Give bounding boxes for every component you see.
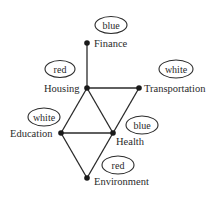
node-education: Education — [10, 128, 64, 139]
node-label: Transportation — [144, 83, 206, 94]
node-dot — [58, 130, 64, 136]
node-dot — [84, 40, 90, 46]
node-label: Education — [10, 128, 53, 139]
color-label: red — [54, 64, 67, 75]
node-label: Housing — [44, 83, 80, 94]
color-badge-transportation: white — [159, 60, 193, 78]
color-label: white — [165, 64, 188, 75]
node-housing: Housing — [44, 83, 90, 94]
node-label: Environment — [94, 176, 149, 187]
color-label: red — [112, 160, 125, 171]
color-badge-education: white — [28, 108, 60, 126]
node-dot — [84, 175, 90, 181]
graph-coloring-diagram: blueredwhitewhitebluered FinanceHousingT… — [0, 0, 216, 199]
color-badge-health: blue — [126, 116, 158, 134]
node-label: Finance — [94, 38, 128, 49]
node-dot — [136, 85, 142, 91]
edge-education-environment — [61, 133, 87, 178]
node-label: Health — [116, 136, 145, 147]
edge-housing-education — [61, 88, 87, 133]
color-label: blue — [133, 120, 151, 131]
node-environment: Environment — [84, 175, 149, 187]
color-badge-environment: red — [102, 156, 134, 174]
node-finance: Finance — [84, 38, 127, 49]
node-dot — [84, 85, 90, 91]
node-transportation: Transportation — [136, 83, 206, 94]
edge-housing-health — [87, 88, 113, 133]
color-badge-housing: red — [45, 61, 75, 78]
color-label: blue — [102, 20, 120, 31]
node-dot — [110, 130, 116, 136]
color-badge-finance: blue — [95, 17, 127, 34]
color-label: white — [33, 112, 56, 123]
